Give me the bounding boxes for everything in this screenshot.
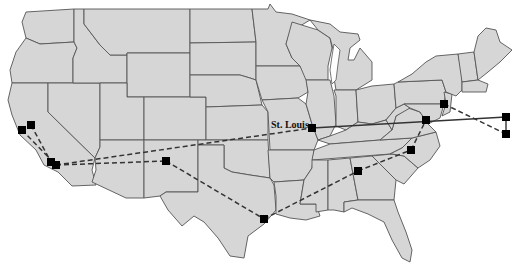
state-oregon — [10, 38, 77, 83]
state-florida — [344, 200, 412, 262]
state-maine — [474, 28, 512, 80]
state-north-dakota — [190, 9, 256, 43]
state-massachusetts-ct-ri — [462, 80, 488, 92]
state-wyoming — [127, 53, 190, 97]
state-iowa — [256, 66, 308, 100]
edge-new-jersey-offshore-b — [444, 104, 506, 134]
map-labels: St. Louis — [271, 119, 309, 130]
node-sf-a — [18, 126, 26, 134]
node-offshore-a — [502, 113, 510, 121]
node-houston — [260, 215, 268, 223]
states-layer — [8, 4, 512, 262]
node-new-jersey — [440, 100, 448, 108]
node-atlanta — [354, 167, 362, 175]
state-washington — [22, 9, 74, 44]
label-st-louis: St. Louis — [271, 119, 309, 130]
state-south-dakota — [190, 42, 256, 80]
node-southwest — [162, 157, 170, 165]
state-kansas — [206, 105, 268, 140]
node-st-louis — [308, 124, 316, 132]
node-washington-dc — [422, 116, 430, 124]
state-arizona — [92, 140, 144, 198]
node-offshore-b — [502, 130, 510, 138]
state-colorado — [144, 97, 206, 140]
node-la-b — [52, 161, 60, 169]
us-network-map: St. Louis — [0, 0, 518, 269]
node-sf-b — [27, 121, 35, 129]
node-north-carolina — [407, 146, 415, 154]
